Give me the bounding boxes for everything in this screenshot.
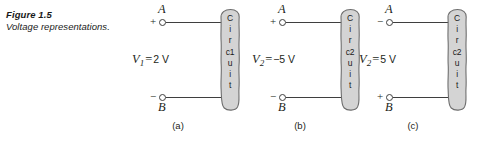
circuit-letter: r: [456, 35, 459, 46]
circuit-letter: i: [456, 24, 458, 35]
figure-number: Figure 1.5: [6, 9, 126, 21]
polarity-sign-top-a: +: [150, 16, 156, 27]
circuit-letter: t: [456, 80, 458, 91]
circuit-block-label-a: C i r c1 u i t: [218, 13, 242, 91]
voltage-equals-a: =: [144, 52, 153, 66]
voltage-symbol-c: V: [359, 52, 367, 66]
voltage-equals-c: =: [371, 52, 380, 66]
circuit-letter: c2: [346, 47, 355, 58]
circuit-letter: c2: [453, 47, 462, 58]
lead-wire-bottom-b: [286, 97, 344, 98]
circuit-letter: t: [349, 80, 351, 91]
circuit-block-a: C i r c1 u i t: [218, 8, 242, 111]
polarity-sign-bottom-b: −: [270, 91, 276, 102]
voltage-label-c: V2=5 V: [359, 52, 396, 70]
voltage-label-a: V1=2 V: [132, 52, 169, 70]
node-label-bottom-c: B: [385, 101, 393, 114]
circuit-block-c: C i r c2 u i t: [445, 8, 469, 111]
lead-wire-top-a: [166, 22, 224, 23]
circuit-letter: C: [347, 13, 353, 24]
voltage-label-b: V2=−5 V: [252, 52, 295, 70]
panel-sub-label-c: (c): [361, 120, 465, 131]
figure-panel-c: A − V2=5 V + B C i r c2 u i t (c): [355, 0, 473, 142]
circuit-letter: c1: [226, 47, 235, 58]
figure-caption: Figure 1.5 Voltage representations.: [6, 9, 126, 34]
voltage-symbol-b: V: [252, 52, 260, 66]
node-label-top-a: A: [158, 3, 166, 16]
terminal-node-top-c: [386, 19, 393, 26]
circuit-letter: C: [227, 13, 233, 24]
circuit-letter: C: [454, 13, 460, 24]
voltage-symbol-a: V: [132, 52, 140, 66]
circuit-letter: i: [349, 69, 351, 80]
circuit-letter: i: [229, 69, 231, 80]
node-label-bottom-a: B: [158, 101, 166, 114]
lead-wire-top-b: [286, 22, 344, 23]
panel-sub-label-b: (b): [248, 120, 352, 131]
circuit-letter: u: [348, 58, 353, 69]
polarity-sign-top-b: +: [270, 16, 276, 27]
voltage-value-a: 2 V: [153, 53, 169, 65]
circuit-letter: r: [229, 35, 232, 46]
lead-wire-top-c: [393, 22, 451, 23]
circuit-letter: r: [349, 35, 352, 46]
circuit-letter: t: [229, 80, 231, 91]
polarity-sign-bottom-c: +: [377, 91, 383, 102]
figure-caption-text: Voltage representations.: [6, 21, 126, 34]
lead-wire-bottom-c: [393, 97, 451, 98]
node-label-top-b: A: [278, 3, 286, 16]
voltage-value-c: 5 V: [380, 53, 396, 65]
circuit-letter: i: [456, 69, 458, 80]
circuit-block-label-c: C i r c2 u i t: [445, 13, 469, 91]
circuit-letter: u: [455, 58, 460, 69]
panel-sub-label-a: (a): [128, 120, 228, 131]
polarity-sign-top-c: −: [377, 16, 383, 27]
polarity-sign-bottom-a: −: [150, 91, 156, 102]
circuit-letter: u: [228, 58, 233, 69]
node-label-bottom-b: B: [278, 101, 286, 114]
lead-wire-bottom-a: [166, 97, 224, 98]
figure-panel-a: A + V1=2 V − B C i r c1 u i t (a): [128, 0, 246, 142]
voltage-value-b: −5 V: [273, 53, 295, 65]
terminal-node-top-b: [279, 19, 286, 26]
node-label-top-c: A: [385, 3, 393, 16]
figure-panel-b: A + V2=−5 V − B C i r c2 u i t (b): [248, 0, 366, 142]
circuit-letter: i: [229, 24, 231, 35]
circuit-letter: i: [349, 24, 351, 35]
voltage-equals-b: =: [264, 52, 273, 66]
terminal-node-top-a: [159, 19, 166, 26]
